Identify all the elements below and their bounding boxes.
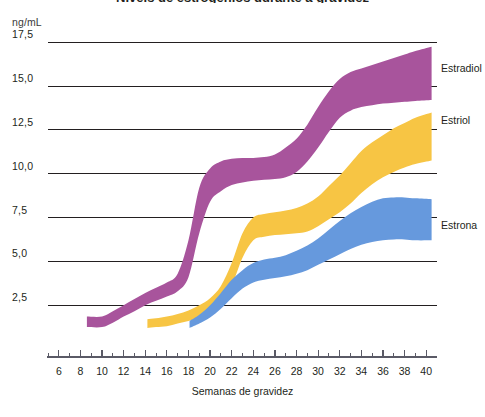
x-tick-label: 14 xyxy=(135,365,155,377)
x-tick-label: 22 xyxy=(222,365,242,377)
y-tick-label: 10,0 xyxy=(12,160,33,172)
x-tick-label: 40 xyxy=(416,365,436,377)
x-tick-label: 24 xyxy=(243,365,263,377)
x-tick-label: 20 xyxy=(200,365,220,377)
x-tick-label: 10 xyxy=(92,365,112,377)
x-tick-label: 26 xyxy=(265,365,285,377)
y-tick-label: 7,5 xyxy=(12,204,27,216)
series-band-estradiol xyxy=(87,47,432,328)
x-tick-label: 6 xyxy=(49,365,69,377)
series-label-estriol: Estriol xyxy=(441,114,470,126)
x-tick-label: 12 xyxy=(114,365,134,377)
x-tick-label: 28 xyxy=(287,365,307,377)
x-tick-label: 30 xyxy=(308,365,328,377)
y-tick-label: 17,5 xyxy=(12,28,33,40)
y-tick-label: 15,0 xyxy=(12,72,33,84)
x-tick-label: 36 xyxy=(373,365,393,377)
chart-plot-area xyxy=(0,0,485,417)
estrogen-levels-chart: Níveis de estrogênios durante a gravidez… xyxy=(0,0,485,417)
x-tick-label: 18 xyxy=(178,365,198,377)
x-tick-label: 38 xyxy=(395,365,415,377)
y-tick-label: 5,0 xyxy=(12,247,27,259)
x-tick-label: 34 xyxy=(351,365,371,377)
x-tick-label: 8 xyxy=(70,365,90,377)
x-tick-label: 32 xyxy=(330,365,350,377)
y-tick-label: 12,5 xyxy=(12,116,33,128)
x-axis-title: Semanas de gravidez xyxy=(0,385,485,397)
series-label-estradiol: Estradiol xyxy=(441,62,482,74)
series-label-estrona: Estrona xyxy=(441,219,477,231)
x-tick-label: 16 xyxy=(157,365,177,377)
y-tick-label: 2,5 xyxy=(12,291,27,303)
